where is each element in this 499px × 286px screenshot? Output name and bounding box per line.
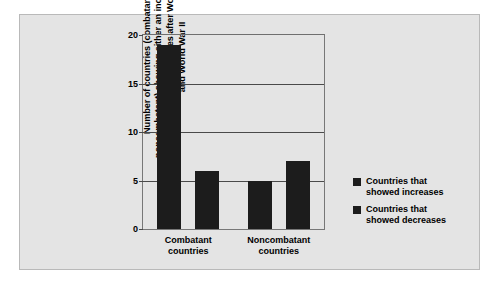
y-axis-tick-label: 10 <box>128 127 138 137</box>
y-axis-tick-mark <box>139 35 143 36</box>
y-axis-tick-mark <box>139 229 143 230</box>
x-axis-group-label: Noncombatantcountries <box>247 235 310 257</box>
x-axis-label-line-2: countries <box>258 246 299 256</box>
y-axis-tick-mark <box>139 181 143 182</box>
legend-label-line-1: Countries that <box>366 176 427 186</box>
y-axis-tick-label: 5 <box>133 176 138 186</box>
y-axis-tick-mark <box>139 132 143 133</box>
legend-swatch-icon <box>353 178 361 186</box>
x-axis-label-line-1: Noncombatant <box>247 235 310 245</box>
x-axis-group-label: Combatantcountries <box>165 235 212 257</box>
chart-legend: Countries that showed increases Countrie… <box>353 176 478 232</box>
legend-swatch-icon <box>353 206 361 214</box>
bar <box>157 45 181 229</box>
y-axis-tick-mark <box>139 84 143 85</box>
legend-item[interactable]: Countries that showed increases <box>353 176 478 198</box>
legend-item[interactable]: Countries that showed decreases <box>353 204 478 226</box>
plot-area: 05101520CombatantcountriesNoncombatantco… <box>142 34 325 230</box>
legend-label: Countries that showed decreases <box>366 204 446 226</box>
legend-label: Countries that showed increases <box>366 176 444 198</box>
x-axis-label-line-2: countries <box>168 246 209 256</box>
chart-figure: Number of countries (combatant vs. nonco… <box>19 14 480 270</box>
y-axis-tick-label: 20 <box>128 30 138 40</box>
bar <box>248 181 272 230</box>
legend-label-line-2: showed decreases <box>366 215 446 225</box>
y-axis-tick-label: 0 <box>133 224 138 234</box>
y-axis-tick-label: 15 <box>128 79 138 89</box>
x-axis-label-line-1: Combatant <box>165 235 212 245</box>
legend-label-line-1: Countries that <box>366 204 427 214</box>
bar <box>286 161 310 229</box>
bar <box>195 171 219 229</box>
legend-label-line-2: showed increases <box>366 187 444 197</box>
